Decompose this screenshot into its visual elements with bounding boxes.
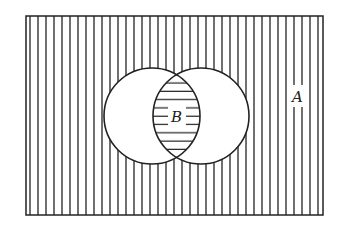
label-a: A: [290, 88, 303, 106]
venn-diagram: B A: [0, 0, 343, 230]
label-b: B: [170, 108, 182, 126]
